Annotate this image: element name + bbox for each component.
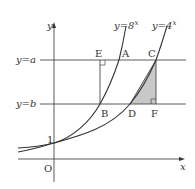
line-a-label: y=a (15, 54, 36, 65)
y-axis-label: y (46, 20, 53, 31)
curve-4x-label: y=4x (151, 19, 176, 31)
diagram-canvas: y x O 1 y=8x y=4x y=a y=b E A C B D F (0, 0, 195, 189)
point-c-label: C (148, 48, 156, 59)
point-b-label: B (101, 108, 108, 119)
right-angle-mark-e (100, 60, 105, 65)
curve-8-power-x (18, 26, 126, 148)
curve-8x-label: y=8x (113, 19, 138, 31)
point-f-label: F (151, 108, 158, 119)
point-a-label: A (121, 48, 130, 59)
origin-label: O (44, 163, 52, 174)
point-e-label: E (95, 48, 102, 59)
point-d-label: D (128, 108, 136, 119)
x-axis-label: x (180, 161, 186, 172)
line-b-label: y=b (15, 98, 36, 109)
one-label: 1 (47, 134, 53, 145)
